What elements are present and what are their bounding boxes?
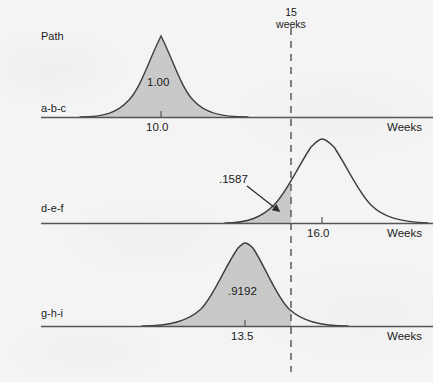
- path-column-header: Path: [41, 30, 64, 43]
- probability-label-g-h-i: .9192: [228, 285, 257, 298]
- probability-label-a-b-c: 1.00: [147, 76, 169, 89]
- threshold-marker-label: 15 weeks: [268, 6, 314, 30]
- threshold-marker-unit: weeks: [268, 18, 314, 30]
- probability-label-d-e-f: .1587: [219, 173, 248, 186]
- axis-title-g-h-i: Weeks: [387, 330, 422, 343]
- axis-title-d-e-f: Weeks: [387, 227, 422, 240]
- mean-label-a-b-c: 10.0: [146, 121, 168, 134]
- mean-label-g-h-i: 13.5: [231, 330, 253, 343]
- row-label-a-b-c: a-b-c: [41, 102, 66, 115]
- axis-title-a-b-c: Weeks: [387, 121, 422, 134]
- row-label-g-h-i: g-h-i: [41, 307, 63, 320]
- shaded-area-d-e-f: [225, 139, 420, 223]
- mean-label-d-e-f: 16.0: [307, 227, 329, 240]
- row-label-d-e-f: d-e-f: [41, 202, 64, 215]
- callout-arrow-d-e-f: [247, 186, 279, 211]
- distribution-a-b-c: [41, 36, 433, 118]
- threshold-marker-value: 15: [268, 6, 314, 18]
- probability-distribution-figure: Path 15 weeks a-b-c 1.00 10.0 Weeks d-e-…: [0, 0, 433, 382]
- curve-d-e-f: [225, 139, 428, 223]
- distribution-plot: [0, 0, 433, 382]
